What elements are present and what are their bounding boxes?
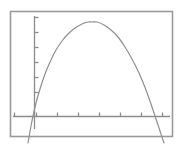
y-axis — [35, 16, 39, 129]
calculator-plot-screen[interactable]: Graphing calculator plot of a downward p… — [0, 0, 182, 146]
plot-canvas[interactable] — [0, 0, 182, 146]
parabola-curve — [28, 22, 164, 143]
x-axis — [13, 113, 170, 117]
